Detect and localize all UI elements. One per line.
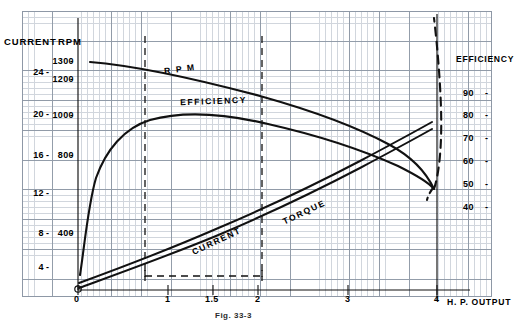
efficiency-tick-60: 60 [463, 156, 474, 166]
efficiency-tick-dash-40: - [485, 202, 488, 212]
axis-title-hp-output: H. P. OUTPUT [447, 297, 511, 307]
current-tick-20: 20 [16, 109, 44, 119]
efficiency-tick-dash-80: - [485, 110, 488, 120]
current-tick-8: 8 [16, 228, 44, 238]
axis-title-efficiency: EFFICIENCY [456, 54, 514, 64]
x-tick-0: 0 [74, 294, 79, 304]
axis-title-rpm: RPM [58, 36, 82, 47]
rpm-tick-dash-800: - [70, 150, 73, 160]
x-tick-3: 3 [345, 294, 350, 304]
efficiency-tick-50: 50 [463, 179, 474, 189]
efficiency-tick-70: 70 [463, 133, 474, 143]
curve-efficiency [80, 114, 433, 275]
x-tick-2: 2 [255, 294, 260, 304]
current-tick-12: 12 [16, 188, 44, 198]
curve-torque [79, 122, 432, 283]
efficiency-tick-dash-60: - [485, 156, 488, 166]
efficiency-tick-dash-70: - [485, 133, 488, 143]
x-tick-1-5: 1.5 [205, 294, 219, 304]
curves-layer [0, 0, 515, 320]
rpm-tick-dash-1000: - [70, 110, 73, 120]
efficiency-tick-dash-90: - [485, 88, 488, 98]
curve-efficiency-dashed-tail [427, 188, 433, 200]
rpm-tick-dash-1200: - [70, 74, 73, 84]
rpm-tick-dash-1300: - [70, 56, 73, 66]
axis-title-current: CURRENT [4, 36, 57, 47]
current-tick-dash-12: - [46, 188, 49, 198]
current-tick-16: 16 [16, 150, 44, 160]
current-tick-4: 4 [16, 262, 44, 272]
efficiency-tick-80: 80 [463, 110, 474, 120]
curve-rpm-dashed-tail [434, 18, 441, 189]
efficiency-tick-40: 40 [463, 202, 474, 212]
figure-motor-characteristic-curves: CURRENT RPM EFFICIENCY H. P. OUTPUT 24 -… [0, 0, 515, 320]
current-tick-24: 24 [16, 67, 44, 77]
rpm-tick-dash-400: - [70, 228, 73, 238]
efficiency-tick-dash-50: - [485, 179, 488, 189]
x-tick-1: 1 [165, 294, 170, 304]
efficiency-tick-90: 90 [463, 88, 474, 98]
figure-caption: Fig. 33-3 [215, 311, 252, 320]
rated-range-span [145, 270, 262, 281]
x-tick-4: 4 [434, 294, 439, 304]
current-tick-dash-4: - [46, 262, 49, 272]
